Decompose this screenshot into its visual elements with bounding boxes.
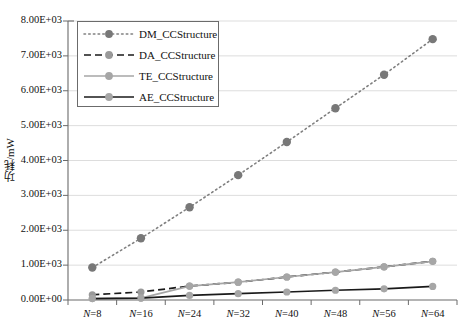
legend-label: AE_CCStructure [137,91,214,103]
y-tick-label: 6.00E+03 [0,84,62,95]
legend-item-DM_CCStructure: DM_CCStructure [81,23,215,44]
chart-canvas [0,0,466,335]
legend-item-DA_CCStructure: DA_CCStructure [81,44,215,65]
legend-item-TE_CCStructure: TE_CCStructure [81,65,215,86]
legend-line-sample-icon [81,45,137,65]
y-tick-label: 1.00E+03 [0,258,62,269]
y-tick-label: 8.00E+03 [0,14,62,25]
y-tick-label: 0.00E+00 [0,293,62,304]
y-tick-label: 2.00E+03 [0,223,62,234]
y-tick-label: 5.00E+03 [0,119,62,130]
y-tick-label: 3.00E+03 [0,188,62,199]
x-tick-label: N=64 [403,308,463,319]
legend-label: DA_CCStructure [137,49,215,61]
legend-line-sample-icon [81,24,137,44]
y-tick-label: 7.00E+03 [0,49,62,60]
legend-item-AE_CCStructure: AE_CCStructure [81,86,215,107]
legend-line-sample-icon [81,66,137,86]
legend-label: TE_CCStructure [137,70,213,82]
power-consumption-line-chart: 功耗/mW 0.00E+001.00E+032.00E+033.00E+034.… [0,0,466,335]
legend-label: DM_CCStructure [137,28,217,40]
y-tick-label: 4.00E+03 [0,154,62,165]
chart-legend: DM_CCStructureDA_CCStructureTE_CCStructu… [77,21,219,107]
legend-line-sample-icon [81,87,137,107]
